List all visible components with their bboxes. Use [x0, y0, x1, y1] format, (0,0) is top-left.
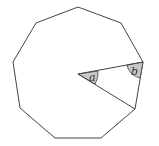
angle-label-a: a	[89, 71, 96, 84]
angle-label-b: b	[131, 65, 138, 78]
nonagon-diagram: a b	[0, 0, 159, 146]
nonagon	[13, 7, 143, 138]
